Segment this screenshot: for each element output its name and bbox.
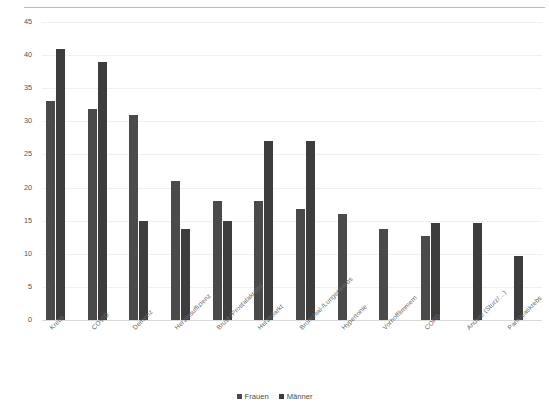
bar-group xyxy=(171,22,213,320)
bar-frauen[interactable] xyxy=(254,201,263,320)
bar-frauen[interactable] xyxy=(213,201,222,320)
legend-label: Frauen xyxy=(245,392,269,401)
bar-group xyxy=(213,22,255,320)
legend-item[interactable]: Männer xyxy=(279,391,313,401)
bar-frauen[interactable] xyxy=(88,109,97,320)
y-axis-tick-label: 30 xyxy=(4,117,32,125)
bar-group xyxy=(88,22,130,320)
bar-maenner[interactable] xyxy=(264,141,273,320)
y-axis-tick-label: 25 xyxy=(4,150,32,158)
y-axis-tick-label: 5 xyxy=(4,283,32,291)
bar-frauen[interactable] xyxy=(379,229,388,320)
x-axis-baseline xyxy=(42,320,542,321)
y-axis-tick-label: 40 xyxy=(4,51,32,59)
bar-frauen[interactable] xyxy=(46,101,55,320)
bar-maenner[interactable] xyxy=(181,229,190,320)
bar-group xyxy=(463,22,505,320)
bar-group xyxy=(504,22,546,320)
bar-group xyxy=(379,22,421,320)
y-axis: 051015202530354045 xyxy=(0,0,38,414)
legend-item[interactable]: Frauen xyxy=(237,391,269,401)
y-axis-tick-label: 45 xyxy=(4,18,32,26)
bar-maenner[interactable] xyxy=(139,221,148,320)
bar-frauen[interactable] xyxy=(296,209,305,320)
bar-frauen[interactable] xyxy=(129,115,138,320)
bar-maenner[interactable] xyxy=(98,62,107,320)
y-axis-tick-label: 20 xyxy=(4,184,32,192)
y-axis-tick-label: 35 xyxy=(4,84,32,92)
bar-frauen[interactable] xyxy=(338,214,347,320)
bar-maenner[interactable] xyxy=(223,221,232,320)
plot-area xyxy=(42,22,542,320)
bar-maenner[interactable] xyxy=(306,141,315,320)
bar-maenner[interactable] xyxy=(431,223,440,320)
bar-maenner[interactable] xyxy=(473,223,482,320)
legend-swatch-icon xyxy=(237,394,242,399)
bar-group xyxy=(46,22,88,320)
bar-group xyxy=(254,22,296,320)
bar-frauen[interactable] xyxy=(171,181,180,320)
bar-frauen[interactable] xyxy=(421,236,430,320)
bar-chart: 051015202530354045 FrauenMänner KrebsCOV… xyxy=(0,0,549,414)
bar-maenner[interactable] xyxy=(56,49,65,321)
bar-group xyxy=(421,22,463,320)
legend-swatch-icon xyxy=(279,394,284,399)
bar-group xyxy=(338,22,380,320)
y-axis-tick-label: 15 xyxy=(4,217,32,225)
chart-legend: FrauenMänner xyxy=(0,391,549,401)
legend-label: Männer xyxy=(287,392,313,401)
y-axis-tick-label: 10 xyxy=(4,250,32,258)
bar-group xyxy=(296,22,338,320)
bar-group xyxy=(129,22,171,320)
y-axis-tick-label: 0 xyxy=(4,316,32,324)
